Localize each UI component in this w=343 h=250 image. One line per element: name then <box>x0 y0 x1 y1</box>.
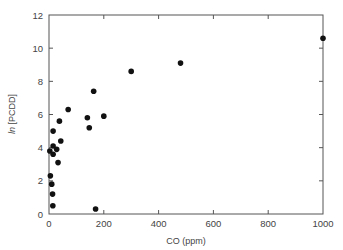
data-point <box>101 113 107 119</box>
x-tick-label: 400 <box>151 218 167 229</box>
data-point <box>49 181 55 187</box>
y-tick-label: 12 <box>32 10 43 21</box>
data-point <box>86 125 92 131</box>
y-axis-label-ln: ln <box>7 127 17 134</box>
data-point <box>178 60 184 66</box>
y-tick-label: 8 <box>38 76 43 87</box>
data-point <box>57 118 63 124</box>
data-points <box>47 35 326 211</box>
data-point <box>54 147 60 153</box>
y-tick-label: 4 <box>38 142 43 153</box>
data-point <box>320 35 326 41</box>
x-tick-label: 1000 <box>312 218 333 229</box>
data-point <box>91 88 97 94</box>
data-point <box>93 206 99 212</box>
x-axis-label: CO (ppm) <box>166 236 206 246</box>
y-axis-ticks: 024681012 <box>32 10 323 220</box>
y-tick-label: 6 <box>38 109 43 120</box>
data-point <box>55 160 61 166</box>
data-point <box>128 69 134 75</box>
y-tick-label: 2 <box>38 175 43 186</box>
data-point <box>85 115 91 121</box>
plot-frame <box>49 15 323 214</box>
x-tick-label: 200 <box>96 218 112 229</box>
y-tick-label: 0 <box>38 209 43 220</box>
x-tick-label: 800 <box>260 218 276 229</box>
data-point <box>58 138 64 144</box>
data-point <box>50 203 56 209</box>
data-point <box>48 173 54 179</box>
x-tick-label: 600 <box>205 218 221 229</box>
data-point <box>50 191 56 197</box>
data-point <box>65 107 71 113</box>
y-tick-label: 10 <box>32 43 43 54</box>
scatter-chart: 024681012 02004006008001000 CO (ppm) ln … <box>0 0 343 250</box>
x-tick-label: 0 <box>46 218 51 229</box>
y-axis-label-rest: [PCDD] <box>7 94 17 127</box>
y-axis-label: ln [PCDD] <box>7 94 17 134</box>
data-point <box>50 128 56 134</box>
data-point <box>50 152 56 158</box>
x-axis-ticks: 02004006008001000 <box>46 15 333 229</box>
